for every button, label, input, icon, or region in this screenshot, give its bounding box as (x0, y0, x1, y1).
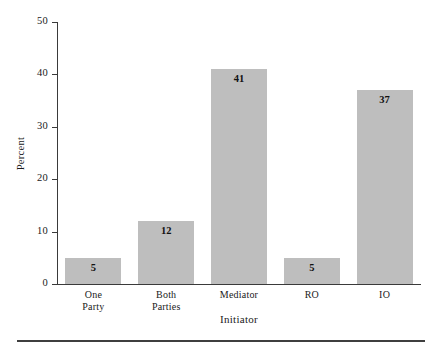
y-tick-mark (52, 179, 57, 180)
y-tick-mark (52, 127, 57, 128)
category-label-line: Party (57, 301, 130, 313)
bar-both-parties[interactable]: 12 (138, 221, 194, 284)
bar-mediator[interactable]: 41 (211, 69, 267, 284)
y-tick-mark (52, 284, 57, 285)
y-tick-0: 0 (0, 284, 57, 285)
category-label-line: RO (275, 289, 348, 301)
bar-value-label: 41 (211, 73, 267, 84)
category-label-mediator: Mediator (203, 289, 276, 301)
y-tick-mark (52, 74, 57, 75)
bar-io[interactable]: 37 (357, 90, 413, 284)
y-tick-20: 20 (0, 179, 57, 180)
bar-one-party[interactable]: 5 (65, 258, 121, 284)
y-tick-40: 40 (0, 74, 57, 75)
bar-value-label: 5 (65, 262, 121, 273)
x-axis-title: Initiator (57, 313, 421, 325)
y-tick-label: 50 (18, 16, 48, 27)
y-tick-30: 30 (0, 127, 57, 128)
category-label-io: IO (348, 289, 421, 301)
y-tick-mark (52, 22, 57, 23)
y-axis-title: Percent (15, 124, 26, 184)
category-label-line: IO (348, 289, 421, 301)
y-tick-label: 40 (18, 68, 48, 79)
category-label-line: One (57, 289, 130, 301)
plot-area: 01020304050 Percent 51241537 OnePartyBot… (0, 0, 442, 360)
bar-value-label: 37 (357, 94, 413, 105)
bar-ro[interactable]: 5 (284, 258, 340, 284)
y-tick-label: 10 (18, 226, 48, 237)
y-axis-line (57, 22, 58, 285)
y-tick-50: 50 (0, 22, 57, 23)
category-label-line: Mediator (203, 289, 276, 301)
category-label-line: Parties (130, 301, 203, 313)
bar-chart-figure: 01020304050 Percent 51241537 OnePartyBot… (0, 0, 442, 360)
x-axis-line (57, 284, 421, 285)
category-label-both-parties: BothParties (130, 289, 203, 312)
y-tick-label: 0 (18, 278, 48, 289)
category-label-one-party: OneParty (57, 289, 130, 312)
bar-value-label: 12 (138, 225, 194, 236)
category-label-ro: RO (275, 289, 348, 301)
bar-value-label: 5 (284, 262, 340, 273)
y-tick-10: 10 (0, 232, 57, 233)
category-label-line: Both (130, 289, 203, 301)
y-tick-mark (52, 232, 57, 233)
bottom-horizontal-rule (17, 340, 425, 342)
